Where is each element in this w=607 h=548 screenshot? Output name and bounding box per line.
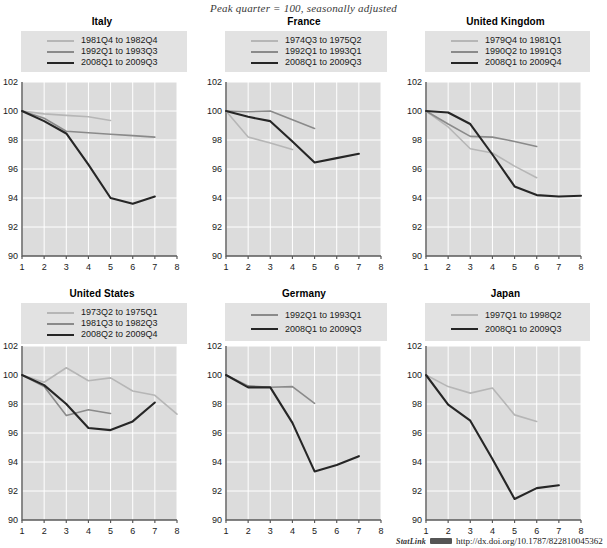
legend-swatch-icon — [47, 62, 74, 64]
y-axis-tick-label: 90 — [8, 251, 18, 261]
x-axis-tick-label: 3 — [64, 262, 69, 272]
legend-swatch-icon — [251, 51, 278, 53]
legend-united-states: 1973Q2 to 1975Q11981Q3 to 1982Q32008Q2 t… — [21, 303, 187, 344]
legend-swatch-icon — [451, 40, 478, 42]
legend-swatch-icon — [251, 314, 278, 316]
x-axis-tick-label: 5 — [108, 262, 113, 272]
legend-item[interactable]: 2008Q1 to 2009Q3 — [225, 322, 387, 336]
x-axis-tick-label: 7 — [152, 526, 157, 536]
y-axis-tick-label: 98 — [8, 135, 18, 145]
x-axis-tick-label: 7 — [152, 262, 157, 272]
legend-item[interactable]: 1979Q4 to 1981Q1 — [425, 35, 590, 46]
y-axis-tick-label: 92 — [212, 486, 222, 496]
x-axis-tick-label: 5 — [312, 526, 317, 536]
x-axis-tick-label: 1 — [19, 526, 24, 536]
panel-grid: Italy 1981Q4 to 1982Q41992Q1 to 1993Q320… — [0, 14, 607, 534]
legend-item-label: 1979Q4 to 1981Q1 — [485, 36, 562, 45]
legend-item[interactable]: 2008Q2 to 2009Q4 — [21, 329, 187, 340]
panel-title: United Kingdom — [404, 14, 607, 27]
legend-item-label: 2008Q1 to 2009Q3 — [81, 58, 158, 67]
chart-svg: 909294969810010212345678 — [404, 342, 586, 542]
legend-item[interactable]: 1973Q2 to 1975Q1 — [21, 307, 187, 318]
y-axis-tick-label: 94 — [412, 193, 422, 203]
legend-swatch-icon — [451, 62, 478, 64]
x-axis-tick-label: 7 — [356, 526, 361, 536]
legend-item-label: 1990Q2 to 1991Q3 — [485, 47, 562, 56]
legend-item[interactable]: 2008Q1 to 2009Q3 — [425, 322, 590, 336]
x-axis-tick-label: 2 — [246, 262, 251, 272]
x-axis-tick-label: 6 — [130, 526, 135, 536]
x-axis-tick-label: 3 — [468, 526, 473, 536]
x-axis-tick-label: 1 — [423, 526, 428, 536]
x-axis-tick-label: 3 — [64, 526, 69, 536]
plot-area-united-states: 909294969810010212345678 — [0, 342, 204, 536]
legend-item-label: 2008Q2 to 2009Q4 — [81, 330, 158, 339]
x-axis-tick-label: 1 — [423, 262, 428, 272]
y-axis-tick-label: 92 — [212, 222, 222, 232]
statlink-url[interactable]: http://dx.doi.org/10.1787/822810045362 — [456, 536, 603, 546]
legend-item[interactable]: 2008Q1 to 2009Q3 — [21, 57, 187, 68]
x-axis-tick-label: 4 — [490, 526, 495, 536]
y-axis-tick-label: 90 — [412, 515, 422, 525]
x-axis-tick-label: 6 — [534, 526, 539, 536]
legend-item[interactable]: 1997Q1 to 1998Q2 — [425, 308, 590, 322]
y-axis-tick-label: 94 — [8, 193, 18, 203]
statlink-source[interactable]: StatLink http://dx.doi.org/10.1787/82281… — [396, 536, 603, 546]
legend-item-label: 2008Q1 to 2009Q3 — [285, 58, 362, 67]
x-axis-tick-label: 2 — [246, 526, 251, 536]
legend-item[interactable]: 1981Q3 to 1982Q3 — [21, 318, 187, 329]
y-axis-tick-label: 102 — [407, 78, 422, 87]
legend-item[interactable]: 1974Q3 to 1975Q2 — [225, 35, 387, 46]
y-axis-tick-label: 100 — [407, 370, 422, 380]
chart-svg: 909294969810010212345678 — [0, 78, 182, 278]
x-axis-tick-label: 3 — [268, 262, 273, 272]
legend-swatch-icon — [47, 312, 74, 314]
legend-france: 1974Q3 to 1975Q21992Q1 to 1993Q12008Q1 t… — [225, 31, 387, 72]
y-axis-tick-label: 98 — [412, 135, 422, 145]
legend-item[interactable]: 1990Q2 to 1991Q3 — [425, 46, 590, 57]
y-axis-tick-label: 100 — [207, 106, 222, 116]
y-axis-tick-label: 96 — [8, 428, 18, 438]
y-axis-tick-label: 94 — [212, 457, 222, 467]
legend-item[interactable]: 1992Q1 to 1993Q3 — [21, 46, 187, 57]
x-axis-tick-label: 7 — [556, 526, 561, 536]
statlink-logo-icon — [430, 538, 452, 544]
y-axis-tick-label: 102 — [207, 342, 222, 351]
legend-swatch-icon — [251, 40, 278, 42]
y-axis-tick-label: 96 — [8, 164, 18, 174]
legend-swatch-icon — [47, 334, 74, 336]
chart-panel-japan: Japan 1997Q1 to 1998Q22008Q1 to 2009Q3 9… — [404, 286, 607, 536]
legend-item-label: 1973Q2 to 1975Q1 — [81, 308, 158, 317]
legend-item[interactable]: 2008Q1 to 2009Q3 — [225, 57, 387, 68]
legend-item-label: 1981Q3 to 1982Q3 — [81, 319, 158, 328]
y-axis-tick-label: 92 — [412, 222, 422, 232]
x-axis-tick-label: 5 — [108, 526, 113, 536]
y-axis-tick-label: 100 — [407, 106, 422, 116]
plot-area-france: 909294969810010212345678 — [204, 78, 404, 286]
plot-area-japan: 909294969810010212345678 — [404, 342, 607, 536]
x-axis-tick-label: 3 — [468, 262, 473, 272]
y-axis-tick-label: 98 — [8, 399, 18, 409]
chart-svg: 909294969810010212345678 — [404, 78, 586, 278]
y-axis-tick-label: 90 — [8, 515, 18, 525]
legend-item[interactable]: 1981Q4 to 1982Q4 — [21, 35, 187, 46]
x-axis-tick-label: 8 — [378, 262, 383, 272]
chart-panel-united-states: United States 1973Q2 to 1975Q11981Q3 to … — [0, 286, 204, 536]
legend-swatch-icon — [251, 62, 278, 64]
chart-svg: 909294969810010212345678 — [204, 78, 386, 278]
y-axis-tick-label: 102 — [3, 342, 18, 351]
legend-item[interactable]: 1992Q1 to 1993Q1 — [225, 46, 387, 57]
y-axis-tick-label: 102 — [207, 78, 222, 87]
y-axis-tick-label: 100 — [3, 106, 18, 116]
x-axis-tick-label: 2 — [446, 262, 451, 272]
legend-item[interactable]: 2008Q1 to 2009Q4 — [425, 57, 590, 68]
chart-svg: 909294969810010212345678 — [0, 342, 182, 542]
y-axis-tick-label: 96 — [212, 428, 222, 438]
y-axis-tick-label: 98 — [412, 399, 422, 409]
x-axis-tick-label: 4 — [290, 262, 295, 272]
x-axis-tick-label: 4 — [86, 526, 91, 536]
legend-item-label: 1974Q3 to 1975Q2 — [285, 36, 362, 45]
legend-swatch-icon — [47, 51, 74, 53]
legend-item[interactable]: 1992Q1 to 1993Q1 — [225, 308, 387, 322]
chart-svg: 909294969810010212345678 — [204, 342, 386, 542]
